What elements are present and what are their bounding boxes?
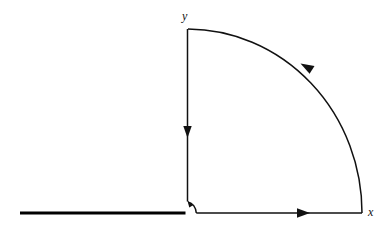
x-axis-label: x (368, 206, 373, 218)
contour-diagram-canvas (0, 0, 389, 232)
arrow-right-x-axis-icon (297, 208, 310, 217)
large-quarter-arc-path (188, 29, 362, 213)
arrow-ccw-large-arc-icon (301, 64, 315, 74)
contour-diagram-figure: y x (0, 0, 389, 232)
y-axis-label: y (182, 10, 187, 22)
arrow-down-y-axis-icon (183, 126, 191, 138)
